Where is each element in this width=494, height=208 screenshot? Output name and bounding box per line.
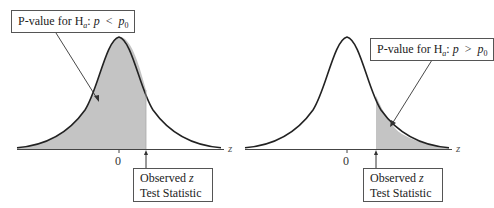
p-symbol: p (94, 14, 100, 28)
observed-text: Observed (140, 171, 186, 185)
left-pvalue-label-box: P-value for Ha: p < p0 (11, 10, 135, 33)
right-pvalue-label-box: P-value for Ha: p > p0 (370, 38, 494, 61)
left-zero-tick-label: 0 (115, 154, 121, 169)
left-observed-z-box: Observed z Test Statistic (133, 168, 213, 202)
right-observed-arrowhead (374, 150, 378, 155)
right-z-axis-label: z (456, 142, 460, 154)
ha-subscript: a (442, 49, 446, 58)
right-observed-z-box: Observed z Test Statistic (363, 168, 443, 202)
greater-than-operator: > (465, 42, 472, 56)
ha-subscript: a (83, 21, 87, 30)
test-statistic-text: Test Statistic (370, 186, 436, 201)
z-variable: z (419, 171, 424, 185)
right-shaded-region (376, 96, 449, 149)
p0-subscript: 0 (124, 21, 128, 30)
right-pvalue-pointer (392, 60, 432, 124)
z-variable: z (189, 171, 194, 185)
pvalue-label-text: P-value for H (18, 14, 83, 28)
test-statistic-text: Test Statistic (140, 186, 206, 201)
left-shaded-region (17, 37, 146, 149)
p-symbol: p (453, 42, 459, 56)
left-z-axis-label: z (228, 142, 232, 154)
right-zero-tick-label: 0 (343, 154, 349, 169)
left-observed-arrowhead (144, 150, 148, 155)
pvalue-label-text: P-value for H (377, 42, 442, 56)
less-than-operator: < (106, 14, 113, 28)
p0-subscript: 0 (483, 49, 487, 58)
left-pvalue-pointer (56, 33, 98, 100)
observed-text: Observed (370, 171, 416, 185)
